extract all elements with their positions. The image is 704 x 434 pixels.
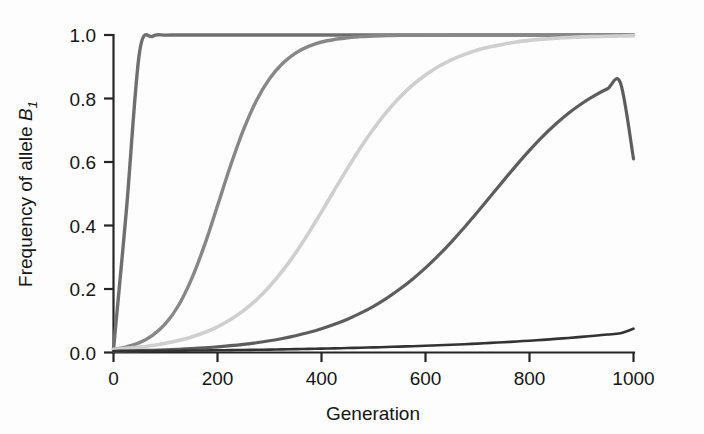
y-axis-title-subscript: 1	[25, 101, 40, 108]
line-chart: 1.0 0.8 0.6 0.4 0.2 0.0 0 200 400 600 80…	[0, 0, 704, 434]
x-tick-label: 0	[108, 368, 119, 389]
y-tick-label: 0.8	[70, 89, 96, 110]
x-axis-title: Generation	[326, 403, 420, 424]
x-tick-label: 800	[514, 368, 546, 389]
y-axis-title-main: Frequency of allele	[15, 121, 36, 287]
y-tick-label: 0.6	[70, 152, 96, 173]
figure-container: 1.0 0.8 0.6 0.4 0.2 0.0 0 200 400 600 80…	[0, 0, 704, 434]
y-tick-label: 0.0	[70, 343, 96, 364]
y-tick-label: 0.4	[70, 216, 97, 237]
x-tick-label: 200	[202, 368, 234, 389]
chart-background	[0, 0, 704, 434]
x-tick-label: 1000	[612, 368, 654, 389]
y-axis-title-symbol: B	[15, 108, 36, 121]
x-tick-label: 400	[306, 368, 338, 389]
y-tick-label: 0.2	[70, 279, 96, 300]
y-tick-label: 1.0	[70, 25, 96, 46]
x-tick-label: 600	[410, 368, 442, 389]
